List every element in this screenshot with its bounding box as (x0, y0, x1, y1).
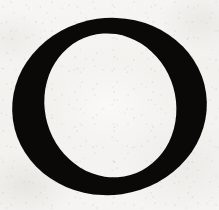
dropcap-ink-body (1, 5, 219, 207)
dropcap-canvas (0, 0, 219, 210)
dropcap-vector (0, 0, 219, 210)
dropcap-letter-o (0, 0, 219, 210)
